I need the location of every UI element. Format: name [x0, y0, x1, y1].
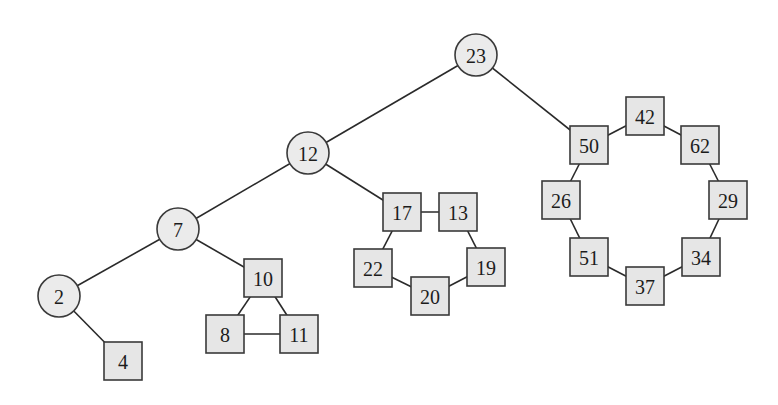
node-26: 26	[542, 181, 580, 219]
node-12: 12	[287, 132, 329, 174]
tree-diagram: 23127241081117132220195042622629513437	[0, 0, 778, 405]
node-29: 29	[709, 181, 747, 219]
node-label: 11	[289, 324, 308, 346]
node-11: 11	[280, 315, 318, 353]
node-37: 37	[626, 267, 664, 305]
node-label: 23	[466, 45, 486, 67]
node-label: 20	[420, 286, 440, 308]
node-label: 13	[448, 202, 468, 224]
node-label: 12	[298, 143, 318, 165]
node-label: 62	[690, 135, 710, 157]
node-17: 17	[383, 193, 421, 231]
edge-23-12	[308, 55, 476, 153]
node-22: 22	[354, 249, 392, 287]
node-label: 50	[579, 135, 599, 157]
node-8: 8	[206, 315, 244, 353]
node-label: 2	[54, 286, 64, 308]
node-34: 34	[682, 238, 720, 276]
node-19: 19	[467, 248, 505, 286]
node-23: 23	[455, 34, 497, 76]
node-label: 26	[551, 190, 571, 212]
node-7: 7	[157, 208, 199, 250]
node-13: 13	[439, 193, 477, 231]
node-42: 42	[626, 97, 664, 135]
edge-12-7	[178, 153, 308, 229]
node-label: 42	[635, 106, 655, 128]
node-label: 51	[579, 247, 599, 269]
node-62: 62	[681, 126, 719, 164]
node-20: 20	[411, 277, 449, 315]
node-10: 10	[244, 259, 282, 297]
node-label: 17	[392, 202, 412, 224]
node-label: 7	[173, 219, 183, 241]
node-2: 2	[38, 275, 80, 317]
nodes-layer: 23127241081117132220195042622629513437	[38, 34, 747, 380]
node-label: 29	[718, 190, 738, 212]
node-4: 4	[104, 342, 142, 380]
node-label: 10	[253, 268, 273, 290]
node-label: 19	[476, 257, 496, 279]
node-label: 22	[363, 258, 383, 280]
node-label: 4	[118, 351, 128, 373]
node-label: 8	[220, 324, 230, 346]
node-label: 34	[691, 247, 711, 269]
node-label: 37	[635, 276, 655, 298]
node-50: 50	[570, 126, 608, 164]
node-51: 51	[570, 238, 608, 276]
